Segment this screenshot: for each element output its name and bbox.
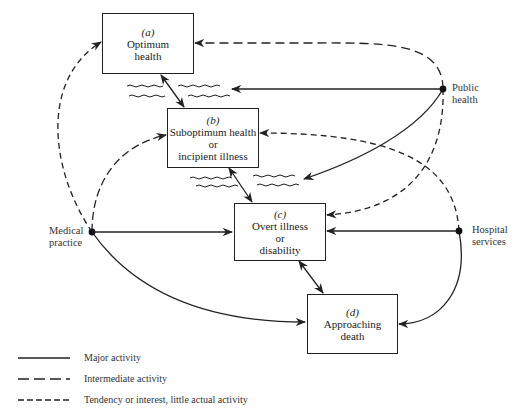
medical-practice-node: [89, 229, 96, 236]
box-line: Overt illness: [252, 220, 308, 232]
edge-hospital-to-d: [399, 231, 461, 324]
box-line: or: [275, 232, 284, 244]
box-line: health: [135, 50, 162, 62]
label-line: Public: [452, 82, 479, 94]
box-overt-illness: (c) Overt illness or disability: [234, 203, 326, 261]
label-line: Hospital: [472, 224, 508, 236]
legend-tendency: Tendency or interest, little actual acti…: [18, 394, 248, 405]
long-dash-line-icon: [18, 376, 70, 382]
edge-public-health-to-c: [327, 89, 443, 215]
box-line: Suboptimum health: [170, 126, 256, 138]
short-dash-line-icon: [18, 397, 70, 403]
legend-label: Major activity: [84, 352, 141, 363]
edge-medical-to-b: [92, 135, 166, 232]
legend-label: Tendency or interest, little actual acti…: [84, 394, 248, 405]
edge-public-health-to-a: [195, 43, 443, 89]
box-tag: (c): [274, 208, 286, 220]
box-optimum-health: (a) Optimum health: [102, 13, 194, 74]
box-tag: (b): [207, 114, 220, 126]
legend-major: Major activity: [18, 352, 141, 363]
box-line: Approaching: [324, 318, 381, 330]
medical-practice-label: Medical practice: [49, 225, 83, 248]
box-line: disability: [260, 244, 301, 256]
public-health-label: Public health: [452, 82, 479, 105]
box-suboptimum-health: (b) Suboptimum health or incipient illne…: [167, 108, 259, 168]
box-tag: (a): [142, 26, 155, 38]
label-line: practice: [49, 237, 83, 249]
legend-intermediate: Intermediate activity: [18, 373, 167, 384]
hospital-services-label: Hospital services: [472, 224, 508, 247]
legend-label: Intermediate activity: [84, 373, 167, 384]
public-health-node: [440, 86, 447, 93]
edge-c-d: [299, 261, 323, 293]
hospital-services-node: [456, 228, 463, 235]
box-line: Optimum: [127, 38, 169, 50]
box-line: death: [341, 330, 365, 342]
label-line: services: [472, 236, 508, 248]
box-line: or: [208, 138, 217, 150]
label-line: Medical: [49, 225, 83, 237]
box-approaching-death: (d) Approaching death: [307, 294, 398, 354]
edge-b-c: [229, 168, 252, 202]
label-line: health: [452, 94, 479, 106]
edge-a-b: [161, 75, 184, 107]
edge-public-health-to-bc: [304, 89, 443, 179]
box-line: incipient illness: [178, 150, 247, 162]
box-tag: (d): [346, 306, 359, 318]
solid-line-icon: [18, 355, 70, 361]
